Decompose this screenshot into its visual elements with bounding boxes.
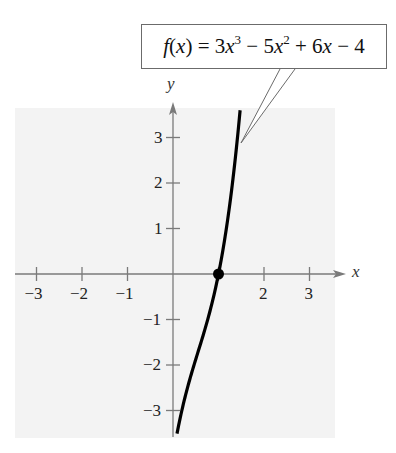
y-axis-label: y <box>167 74 175 94</box>
x-tick-label: −2 <box>70 284 88 304</box>
y-tick-label: −3 <box>143 401 161 421</box>
function-label: f(x) = 3x3 − 5x2 + 6x − 4 <box>163 34 365 59</box>
x-tick-label: 2 <box>259 284 268 304</box>
x-tick-label: 3 <box>305 284 314 304</box>
x-tick-label: −1 <box>116 284 134 304</box>
y-tick-label: −2 <box>143 355 161 375</box>
x-tick-label: −3 <box>25 284 43 304</box>
y-tick-label: −1 <box>143 310 161 330</box>
root-point <box>213 269 224 280</box>
x-axis-label: x <box>352 262 360 282</box>
function-label-callout: f(x) = 3x3 − 5x2 + 6x − 4 <box>141 24 387 69</box>
y-tick-label: 3 <box>154 128 163 148</box>
plot-background <box>15 108 335 438</box>
y-tick-label: 2 <box>154 173 163 193</box>
y-tick-label: 1 <box>154 219 163 239</box>
